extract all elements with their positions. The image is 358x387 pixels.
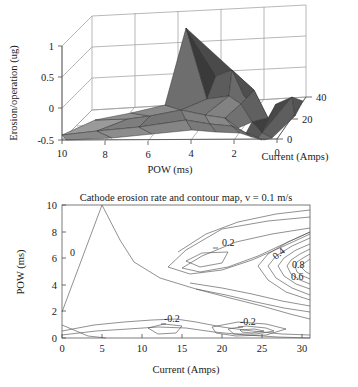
- contour-level-0p2-outer: [168, 217, 310, 274]
- contour-x-tick-5: 5: [99, 343, 104, 354]
- surface-y-tick-20: 20: [302, 114, 313, 125]
- contour-x-tick-30: 30: [297, 343, 308, 354]
- contour-x-tick-20: 20: [217, 343, 228, 354]
- contour-label-zero: 0: [70, 247, 75, 258]
- contour-x-axis: 0 5 10 15 20 25 30 Current (Amps): [59, 334, 307, 376]
- contour-level-0p2-inner-a: [182, 228, 310, 272]
- surface-y-tick-0: 0: [287, 134, 292, 145]
- contour-level-neg0p2-band: [62, 319, 310, 335]
- surface-mesh: [62, 28, 303, 140]
- surface-plot-panel: 1 0.5 0 -0.5 Erosion/operation (ug) 10 8…: [0, 0, 358, 190]
- contour-label-pos08: 0.8: [292, 259, 305, 270]
- contour-y-tick-4: 4: [52, 280, 58, 291]
- contour-y-tick-8: 8: [52, 227, 57, 238]
- surface-x-axis-title: POW (ms): [147, 164, 193, 176]
- contour-plot-svg: Cathode erosion rate and contour map, v …: [0, 188, 358, 387]
- surface-y-tick-40: 40: [316, 92, 327, 103]
- figure-container: 1 0.5 0 -0.5 Erosion/operation (ug) 10 8…: [0, 0, 358, 387]
- contour-y-tick-6: 6: [52, 253, 57, 264]
- contour-y-tick-10: 10: [47, 200, 58, 211]
- contour-lines-group: [62, 205, 310, 338]
- surface-x-axis: 10 8 6 4 2 0 POW (ms): [57, 139, 280, 176]
- contour-x-tick-15: 15: [177, 343, 188, 354]
- contour-y-tick-2: 2: [52, 306, 57, 317]
- contour-y-tick-0: 0: [52, 333, 57, 344]
- contour-x-axis-title: Current (Amps): [153, 364, 220, 376]
- contour-y-axis: 0 2 4 6 8 10 POW (ms): [15, 200, 66, 344]
- contour-plot-title: Cathode erosion rate and contour map, v …: [80, 192, 293, 203]
- surface-z-axis: 1 0.5 0 -0.5 Erosion/operation (ug): [8, 41, 62, 146]
- contour-fan-b: [196, 289, 310, 312]
- contour-x-tick-0: 0: [59, 343, 64, 354]
- contour-x-tick-25: 25: [257, 343, 268, 354]
- surface-x-tick-8: 8: [102, 149, 107, 160]
- surface-z-tick-neg0p5: -0.5: [37, 135, 54, 146]
- contour-label-pos04: 0.4: [270, 245, 287, 261]
- surface-z-tick-1: 1: [49, 41, 54, 52]
- contour-label-pos06: 0.6: [291, 271, 304, 282]
- surface-x-tick-6: 6: [145, 149, 150, 160]
- surface-x-tick-10: 10: [57, 148, 68, 159]
- contour-label-pos02-upper: 0.2: [222, 237, 235, 248]
- contour-label-neg02-left: -0.2: [164, 313, 180, 324]
- contour-level-0-descending: [102, 205, 310, 319]
- surface-z-axis-title: Erosion/operation (ug): [8, 45, 20, 141]
- contour-plot-panel: Cathode erosion rate and contour map, v …: [0, 188, 358, 387]
- contour-level-0-upper: [62, 205, 102, 312]
- surface-x-tick-4: 4: [188, 148, 194, 159]
- contour-label-neg02-right: -0.2: [240, 316, 256, 327]
- contour-x-tick-10: 10: [137, 343, 148, 354]
- surface-z-tick-0: 0: [49, 103, 54, 114]
- contour-level-neg0p2-band2: [62, 327, 310, 338]
- surface-z-tick-0p5: 0.5: [41, 72, 54, 83]
- contour-neg0p2-pocket-left: [148, 324, 182, 334]
- surface-x-tick-2: 2: [231, 148, 236, 159]
- contour-y-axis-title: POW (ms): [15, 249, 27, 295]
- contour-axes-frame: [62, 205, 310, 338]
- contour-fan-a: [190, 283, 310, 306]
- surface-plot-svg: 1 0.5 0 -0.5 Erosion/operation (ug) 10 8…: [0, 0, 358, 190]
- surface-y-axis-title: Current (Amps): [262, 151, 329, 163]
